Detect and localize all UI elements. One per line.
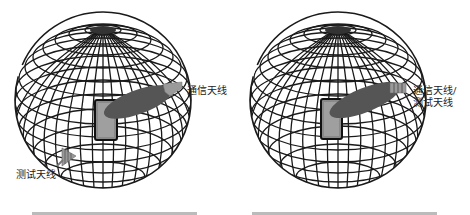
- shared-antenna-icon: [390, 83, 406, 93]
- comm-antenna-label: 通信天线: [187, 85, 227, 97]
- shared-antenna-label: 通信天线/ 测试天线: [413, 85, 456, 109]
- figure-right-shared-antenna: 通信天线/ 测试天线: [235, 0, 470, 200]
- caption-left-cropped: [32, 209, 197, 215]
- caption-right-cropped: [252, 209, 437, 215]
- shared-antenna-label-line1: 通信天线/: [413, 85, 456, 97]
- shared-antenna-label-line2: 测试天线: [413, 97, 456, 109]
- figure-left-separate-antennas: 通信天线 测试天线: [0, 0, 235, 200]
- test-antenna-label: 测试天线: [16, 169, 56, 181]
